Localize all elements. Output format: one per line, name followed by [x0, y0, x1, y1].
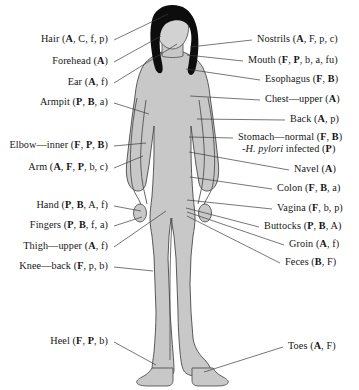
- label-fingers: Fingers (P, B, f, a): [30, 219, 108, 230]
- right-hand-shape: [199, 204, 212, 222]
- label-heel: Heel (F, P, b): [50, 335, 108, 346]
- label-thigh-upper: Thigh—upper (A, f): [23, 240, 108, 251]
- label-esophagus: Esophagus (F, B): [265, 73, 338, 84]
- label-h-pylori-infected: -H. pylori infected (P): [242, 143, 335, 154]
- label-toes: Toes (A, F): [288, 340, 336, 351]
- label-ear: Ear (A, f): [68, 76, 108, 87]
- left-foot-shape: [137, 368, 173, 386]
- label-colon: Colon (F, B, a): [277, 182, 341, 193]
- label-navel: Navel (A): [294, 163, 336, 174]
- anatomy-diagram: Hair (A, C, f, p) Forehead (A) Ear (A, f…: [0, 0, 359, 390]
- body-silhouette: [126, 5, 228, 386]
- label-mouth: Mouth (F, P, b, a, fu): [248, 54, 338, 65]
- label-knee-back: Knee—back (F, p, b): [19, 260, 108, 271]
- left-hand-shape: [134, 204, 147, 222]
- label-hair: Hair (A, C, f, p): [41, 33, 108, 44]
- right-foot-shape: [192, 368, 228, 386]
- label-hand: Hand (P, B, A, f): [36, 199, 108, 210]
- label-forehead: Forehead (A): [52, 55, 108, 66]
- label-armpit: Armpit (P, B, a): [40, 96, 108, 107]
- label-back: Back (A, p): [290, 113, 339, 124]
- label-stomach-normal: Stomach—normal (F, B): [238, 131, 342, 142]
- label-buttocks: Buttocks (P, B, A): [264, 220, 341, 231]
- label-nostrils: Nostrils (A, F, p, c): [257, 33, 338, 44]
- label-arm: Arm (A, F, P, b, c): [28, 161, 108, 172]
- label-vagina: Vagina (F, b, p): [277, 202, 343, 213]
- label-groin: Groin (A, f): [289, 238, 339, 249]
- label-chest-upper: Chest—upper (A): [265, 93, 340, 104]
- label-feces: Feces (B, F): [285, 256, 336, 267]
- label-elbow-inner: Elbow—inner (F, P, B): [9, 139, 108, 150]
